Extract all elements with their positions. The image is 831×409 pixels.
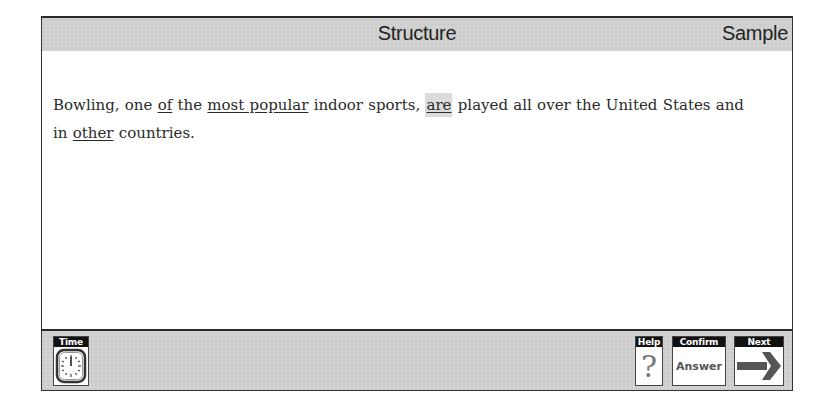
sentence-text: indoor sports, — [308, 96, 425, 114]
help-button[interactable]: Help ? — [635, 336, 663, 386]
question-area: Bowling, one of the most popular indoor … — [42, 51, 792, 329]
section-title: Structure — [42, 22, 792, 45]
next-button[interactable]: Next — [734, 336, 784, 386]
confirm-label: Confirm — [673, 337, 725, 347]
answer-text: Answer — [676, 360, 722, 373]
option-most-popular[interactable]: most popular — [207, 96, 308, 114]
sample-label: Sample — [722, 22, 788, 45]
header-bar: Structure Sample — [42, 18, 792, 51]
sentence-text: the — [172, 96, 207, 114]
option-of[interactable]: of — [158, 96, 173, 114]
question-mark-icon: ? — [641, 352, 657, 382]
sentence-text: countries. — [114, 124, 195, 142]
right-arrow-icon — [736, 349, 782, 383]
next-label: Next — [735, 337, 783, 347]
option-other[interactable]: other — [73, 124, 114, 142]
sentence-text: Bowling, one — [53, 96, 158, 114]
confirm-answer-button[interactable]: Confirm Answer — [672, 336, 726, 386]
question-sentence: Bowling, one of the most popular indoor … — [53, 91, 753, 147]
test-window: Structure Sample Bowling, one of the mos… — [41, 16, 793, 391]
option-are-selected[interactable]: are — [425, 93, 452, 117]
bottom-toolbar: Time — [42, 329, 792, 390]
time-button[interactable]: Time — [53, 336, 89, 386]
clock-icon — [55, 348, 87, 384]
time-label: Time — [54, 337, 88, 347]
help-label: Help — [636, 337, 662, 347]
